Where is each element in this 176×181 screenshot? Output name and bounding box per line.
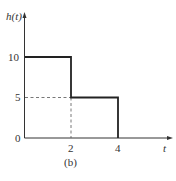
y-axis-label: h(t) <box>6 10 22 23</box>
x-axis-label: t <box>163 142 167 154</box>
figure-caption: (b) <box>64 156 77 169</box>
x-tick-4: 4 <box>115 142 121 154</box>
y-tick-10: 10 <box>8 51 20 63</box>
step-chart: h(t) 10 5 0 2 4 t (b) <box>0 0 176 181</box>
x-axis-arrow-icon <box>167 136 173 140</box>
y-tick-0: 0 <box>15 132 21 144</box>
x-tick-2: 2 <box>68 142 74 154</box>
y-axis-arrow-icon <box>23 12 27 18</box>
y-tick-5: 5 <box>15 91 21 103</box>
